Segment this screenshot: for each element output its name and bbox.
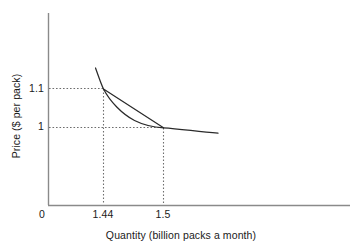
x-tick-label-1-5: 1.5: [147, 208, 179, 220]
y-axis-title: Price ($ per pack): [10, 46, 22, 186]
chart-plot-area: [0, 0, 362, 250]
chord-line: [104, 89, 164, 128]
y-tick-label-1: 1: [24, 120, 44, 132]
x-tick-label-0: 0: [34, 208, 50, 220]
x-tick-label-1-44: 1.44: [85, 208, 121, 220]
x-axis-title: Quantity (billion packs a month): [0, 229, 362, 241]
economics-demand-chart: 1.1 1 0 1.44 1.5 Quantity (billion packs…: [0, 0, 362, 250]
y-tick-label-1-1: 1.1: [24, 82, 44, 94]
